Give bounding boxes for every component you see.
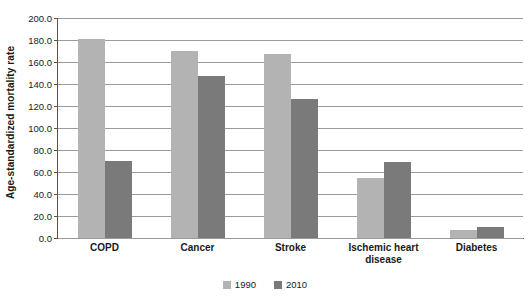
x-axis-tick-label-line: Stroke bbox=[244, 242, 337, 254]
y-axis-tick-label: 140.0 bbox=[28, 79, 52, 90]
x-axis-category-labels: COPDCancerStrokeIschemic heartdiseaseDia… bbox=[58, 242, 523, 276]
bar-chart-figure: Age-standardized mortality rate 200.0180… bbox=[0, 0, 530, 297]
bar-diabetes-1990 bbox=[450, 230, 477, 238]
bar-copd-1990 bbox=[78, 39, 105, 238]
y-axis-tick-label: 180.0 bbox=[28, 35, 52, 46]
bars-layer bbox=[58, 18, 523, 238]
plot-area bbox=[58, 18, 523, 238]
y-axis-tick-label: 40.0 bbox=[34, 189, 53, 200]
x-axis-tick-label: Ischemic heartdisease bbox=[337, 242, 430, 266]
y-axis-tick-label: 160.0 bbox=[28, 57, 52, 68]
x-axis-tick-label: Cancer bbox=[151, 242, 244, 254]
bar-diabetes-2010 bbox=[477, 227, 504, 238]
legend-label: 1990 bbox=[235, 279, 256, 290]
bar-copd-2010 bbox=[105, 161, 132, 238]
x-axis-tick-label-line: disease bbox=[337, 254, 430, 266]
chart-legend: 19902010 bbox=[0, 279, 530, 290]
legend-entry-2010: 2010 bbox=[274, 279, 307, 290]
bar-ischemic-heart-disease-1990 bbox=[357, 178, 384, 239]
legend-label: 2010 bbox=[286, 279, 307, 290]
y-axis-tick-label: 20.0 bbox=[34, 211, 53, 222]
y-axis-title: Age-standardized mortality rate bbox=[0, 0, 22, 245]
bar-cancer-2010 bbox=[198, 76, 225, 238]
legend-swatch-icon bbox=[274, 281, 282, 289]
y-axis-tick-label: 80.0 bbox=[34, 145, 53, 156]
y-axis-tick-label: 200.0 bbox=[28, 13, 52, 24]
y-axis-tick-labels: 200.0180.0160.0140.0120.0100.080.060.040… bbox=[22, 18, 56, 238]
legend-entry-1990: 1990 bbox=[223, 279, 256, 290]
bar-stroke-1990 bbox=[264, 54, 291, 238]
x-axis-tick-label-line: COPD bbox=[58, 242, 151, 254]
x-axis-tick-label: COPD bbox=[58, 242, 151, 254]
x-axis-tick-label-line: Ischemic heart bbox=[337, 242, 430, 254]
y-axis-tick-label: 0.0 bbox=[39, 233, 52, 244]
legend-swatch-icon bbox=[223, 281, 231, 289]
y-axis-tick-label: 120.0 bbox=[28, 101, 52, 112]
y-axis-title-text: Age-standardized mortality rate bbox=[6, 46, 17, 199]
x-axis-tick-label: Stroke bbox=[244, 242, 337, 254]
y-axis-tick-label: 60.0 bbox=[34, 167, 53, 178]
bar-ischemic-heart-disease-2010 bbox=[384, 162, 411, 238]
x-axis-tick-label: Diabetes bbox=[430, 242, 523, 254]
x-axis-tick-label-line: Diabetes bbox=[430, 242, 523, 254]
gridline bbox=[58, 238, 523, 239]
y-axis-tick-mark bbox=[54, 238, 58, 239]
x-axis-tick-label-line: Cancer bbox=[151, 242, 244, 254]
bar-cancer-1990 bbox=[171, 51, 198, 238]
bar-stroke-2010 bbox=[291, 99, 318, 238]
y-axis-tick-label: 100.0 bbox=[28, 123, 52, 134]
